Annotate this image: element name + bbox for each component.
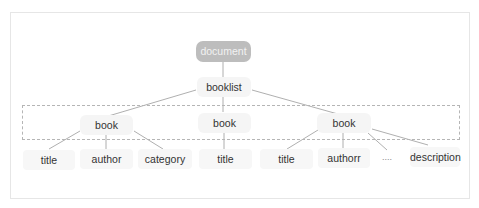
more-children-ellipsis: .... — [382, 152, 392, 162]
leaf-authorr-3: authorr — [318, 148, 370, 168]
node-book-2: book — [198, 113, 251, 133]
leaf-author-1: author — [80, 149, 133, 169]
leaf-title-3: title — [260, 149, 313, 169]
node-book-3: book — [317, 113, 371, 133]
leaf-title-2: title — [199, 149, 252, 169]
leaf-description-3: description — [410, 147, 460, 167]
node-book-1: book — [80, 115, 133, 135]
tree-edges — [0, 0, 479, 208]
node-document: document — [196, 41, 251, 62]
leaf-title-1: title — [23, 150, 75, 170]
node-booklist: booklist — [197, 77, 251, 97]
leaf-category-1: category — [138, 149, 192, 169]
